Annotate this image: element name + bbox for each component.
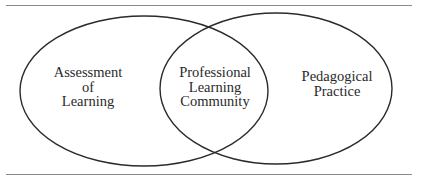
label-line: Professional xyxy=(179,65,251,80)
label-line: of xyxy=(54,80,122,95)
label-line: Assessment xyxy=(54,65,122,80)
venn-figure: Assessment of Learning Professional Lear… xyxy=(0,0,428,181)
label-line: Learning xyxy=(179,80,251,95)
label-pedagogical-practice: Pedagogical Practice xyxy=(302,69,373,98)
label-line: Pedagogical xyxy=(302,69,373,84)
bottom-rule xyxy=(6,174,412,175)
label-line: Community xyxy=(179,94,251,109)
label-line: Practice xyxy=(302,84,373,99)
label-line: Learning xyxy=(54,94,122,109)
label-professional-learning-community: Professional Learning Community xyxy=(179,65,251,109)
label-assessment-of-learning: Assessment of Learning xyxy=(54,65,122,109)
